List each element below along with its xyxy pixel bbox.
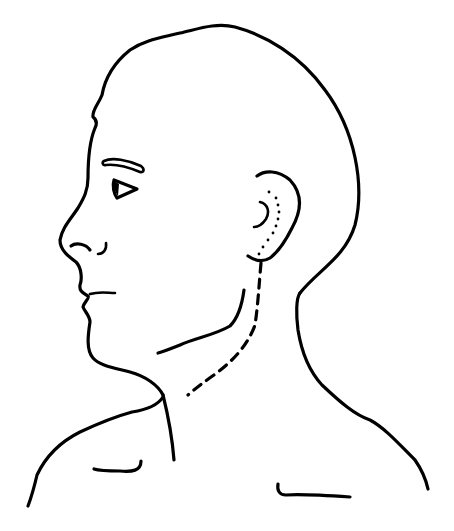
ear xyxy=(248,172,300,261)
front-neck-line xyxy=(163,395,174,460)
nostril xyxy=(71,244,90,250)
eyebrow xyxy=(103,159,144,172)
front-shoulder-line xyxy=(28,397,163,506)
figure-canvas xyxy=(0,0,454,531)
head-profile-drawing xyxy=(0,0,454,531)
jaw-line xyxy=(158,290,244,353)
lip-line xyxy=(90,292,115,294)
head-outline xyxy=(60,25,359,395)
ear-inner-curl xyxy=(254,202,268,227)
back-neck-shoulder-line xyxy=(297,293,428,489)
nasolabial-mark xyxy=(98,243,106,254)
right-clavicle-mark xyxy=(278,484,350,497)
left-clavicle-mark xyxy=(94,461,141,471)
